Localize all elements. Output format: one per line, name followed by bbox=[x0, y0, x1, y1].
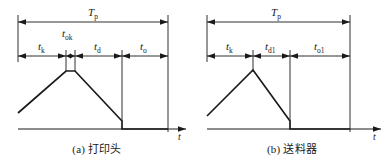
label-tp-subscript: p bbox=[277, 12, 281, 21]
label-tp: Tp bbox=[88, 7, 98, 21]
label-tok: tok bbox=[62, 28, 73, 42]
arrowhead-td1-right bbox=[282, 53, 290, 59]
caption-panel-a: (a) 打印头 bbox=[0, 140, 194, 156]
panel-print-head: Tp tk tok td to t (a) 打印头 bbox=[0, 0, 194, 166]
arrowhead-td-left bbox=[75, 53, 83, 59]
caption-panel-b: (b) 送料器 bbox=[195, 140, 389, 156]
label-tok-subscript: ok bbox=[65, 33, 73, 42]
label-tp: Tp bbox=[271, 7, 281, 21]
label-tk: tk bbox=[226, 41, 233, 55]
panel-feeder: Tp tk td1 to1 t (b) 送料器 bbox=[195, 0, 389, 166]
label-tp-subscript: p bbox=[94, 12, 98, 21]
arrowhead-to-right bbox=[160, 53, 168, 59]
label-to-subscript: o bbox=[143, 46, 147, 55]
label-to: to bbox=[140, 41, 147, 55]
label-td: td bbox=[94, 41, 101, 55]
label-to1-subscript: o1 bbox=[317, 46, 325, 55]
label-tk-subscript: k bbox=[229, 46, 233, 55]
waveform-trace bbox=[207, 70, 350, 129]
label-tk: tk bbox=[38, 41, 45, 55]
arrowhead-right-tp bbox=[160, 19, 168, 25]
arrowhead-left-tp bbox=[18, 19, 26, 25]
arrowhead-tk-right bbox=[245, 53, 253, 59]
arrowhead-left-tp bbox=[207, 19, 215, 25]
label-td1-subscript: d1 bbox=[268, 46, 276, 55]
arrowhead-tk-left bbox=[18, 53, 26, 59]
arrowhead-to1-right bbox=[342, 53, 350, 59]
arrowhead-to1-left bbox=[290, 53, 298, 59]
arrowhead-td1-left bbox=[253, 53, 261, 59]
arrowhead-right-tp bbox=[342, 19, 350, 25]
arrowhead-td-right bbox=[114, 53, 122, 59]
waveform-trace bbox=[18, 71, 168, 129]
arrowhead-to-left bbox=[122, 53, 130, 59]
arrowhead-tok-right bbox=[70, 54, 75, 59]
label-td-subscript: d bbox=[97, 46, 101, 55]
arrowhead-tk-left bbox=[207, 53, 215, 59]
label-to1: to1 bbox=[314, 41, 325, 55]
label-tk-subscript: k bbox=[41, 46, 45, 55]
timing-diagram-figure: Tp tk tok td to t (a) 打印头 bbox=[0, 0, 389, 166]
label-td1: td1 bbox=[265, 41, 276, 55]
arrowhead-tk-right bbox=[58, 53, 66, 59]
